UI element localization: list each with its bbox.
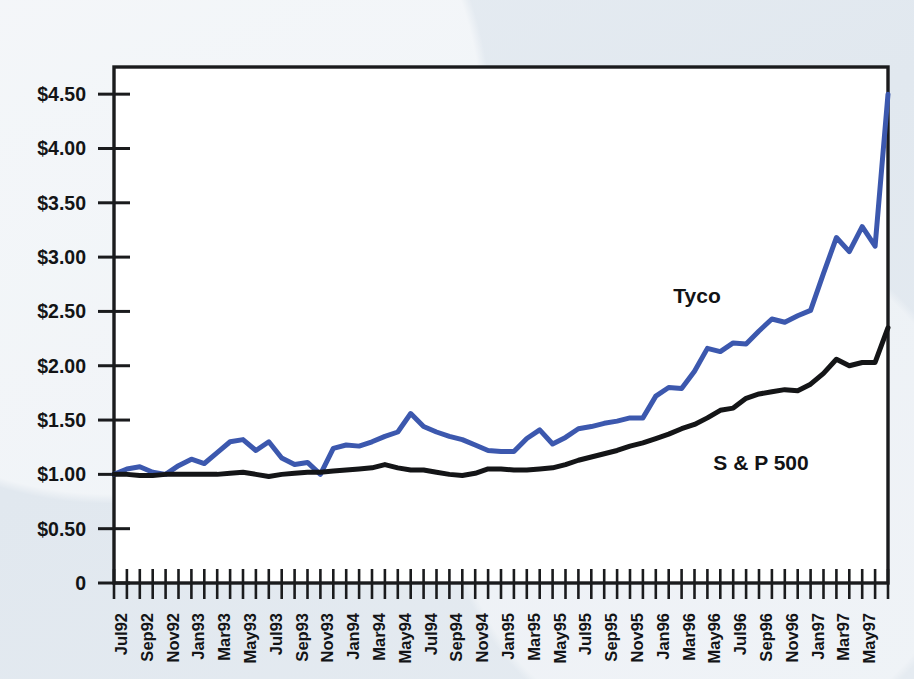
plot-background — [114, 67, 888, 583]
y-tick-label: $4.50 — [37, 83, 86, 105]
x-tick-label: Nov96 — [783, 613, 801, 663]
x-tick-label: Jul93 — [267, 613, 285, 655]
chart-figure: 0$0.50$1.00$1.50$2.00$2.50$3.00$3.50$4.0… — [0, 0, 914, 679]
y-tick-label: $2.50 — [37, 300, 86, 322]
x-tick-label: Nov93 — [318, 613, 336, 663]
y-tick-label: $1.50 — [37, 409, 86, 431]
x-tick-label: Sep92 — [138, 613, 156, 662]
tyco-series-label: Tyco — [673, 284, 720, 307]
x-tick-label: Sep93 — [293, 613, 311, 662]
x-tick-label: Nov92 — [164, 613, 182, 663]
y-tick-label: $1.00 — [37, 463, 86, 485]
x-tick-label: May93 — [241, 613, 259, 663]
x-tick-label: May95 — [551, 613, 569, 663]
x-tick-label: May94 — [396, 612, 414, 663]
x-tick-label: Mar94 — [370, 612, 388, 661]
x-tick-label: Mar95 — [525, 613, 543, 661]
x-tick-label: Sep95 — [602, 613, 620, 662]
y-tick-label: $3.00 — [37, 246, 86, 268]
y-tick-label: 0 — [75, 572, 86, 594]
y-tick-label: $3.50 — [37, 192, 86, 214]
x-tick-label: Mar97 — [834, 613, 852, 661]
x-tick-label: Jan95 — [499, 613, 517, 660]
x-tick-label: Sep96 — [757, 613, 775, 662]
x-tick-label: Jul94 — [422, 612, 440, 655]
y-tick-label: $4.00 — [37, 137, 86, 159]
y-axis-tick-labels: 0$0.50$1.00$1.50$2.00$2.50$3.00$3.50$4.0… — [37, 83, 86, 594]
x-tick-label: Sep94 — [447, 612, 465, 661]
x-tick-label: Jan96 — [654, 613, 672, 660]
x-tick-label: Mar93 — [215, 613, 233, 661]
x-tick-label: Jul95 — [576, 613, 594, 655]
y-tick-label: $0.50 — [37, 518, 86, 540]
line-chart: 0$0.50$1.00$1.50$2.00$2.50$3.00$3.50$4.0… — [0, 0, 914, 679]
x-tick-label: Jan94 — [344, 612, 362, 660]
x-axis-tick-labels: Jul92Sep92Nov92Jan93Mar93May93Jul93Sep93… — [112, 612, 878, 663]
x-tick-label: Jul96 — [731, 613, 749, 655]
x-tick-label: Nov95 — [628, 613, 646, 663]
sp500-series-label: S & P 500 — [713, 451, 808, 474]
x-tick-label: Nov94 — [473, 612, 491, 662]
x-tick-label: Jan93 — [189, 613, 207, 660]
y-tick-label: $2.00 — [37, 355, 86, 377]
x-tick-label: Mar96 — [680, 613, 698, 661]
x-tick-label: May97 — [860, 613, 878, 663]
x-tick-label: Jul92 — [112, 613, 130, 655]
x-tick-label: May96 — [705, 613, 723, 663]
x-tick-label: Jan97 — [809, 613, 827, 660]
